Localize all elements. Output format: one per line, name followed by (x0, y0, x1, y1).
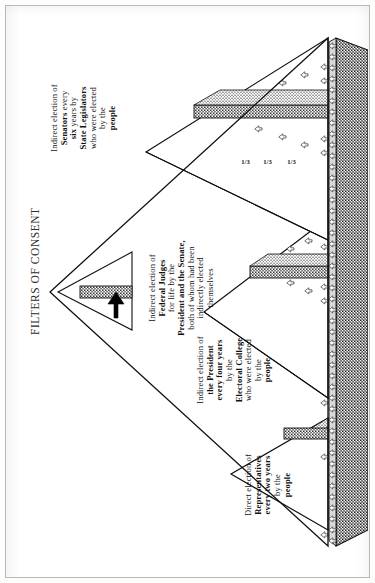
fraction-label-1: 1/3 (287, 158, 295, 165)
page-frame: FILTERS OF CONSENT (5, 5, 370, 578)
people-base-band (329, 38, 368, 546)
pyramid-artwork: 1/3 1/3 1/3 Indirect election of Senator… (36, 14, 368, 570)
label-representatives: Direct election of Representatives every… (244, 414, 292, 556)
fraction-label-2: 1/3 (263, 158, 271, 165)
scanned-page: FILTERS OF CONSENT (0, 0, 375, 583)
fraction-label-3: 1/3 (241, 158, 249, 165)
label-senators: Indirect election of Senators every six … (50, 38, 117, 198)
diagram-canvas: 1/3 1/3 1/3 Indirect election of Senator… (36, 14, 368, 570)
